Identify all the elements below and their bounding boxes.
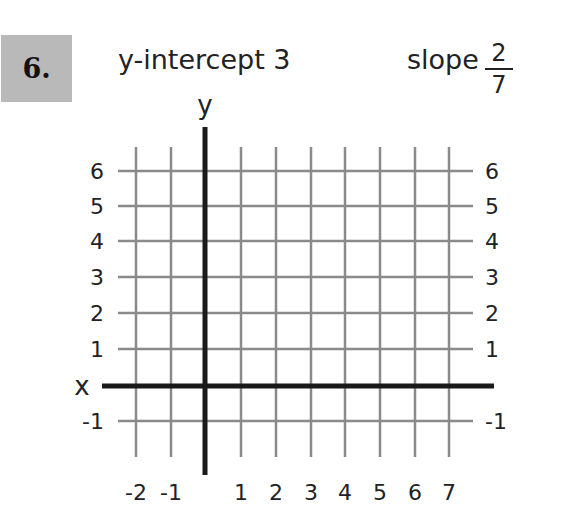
y-tick-label-left: 5 — [90, 194, 104, 219]
y-tick-label-left: 1 — [90, 337, 104, 362]
y-tick-label-right: 4 — [485, 229, 499, 254]
x-tick-label: 3 — [304, 480, 318, 505]
y-tick-label-right: 1 — [485, 337, 499, 362]
x-tick-label: 1 — [234, 480, 248, 505]
x-tick-label: 4 — [338, 480, 352, 505]
y-tick-label-left: 3 — [90, 265, 104, 290]
x-tick-label: 6 — [408, 480, 422, 505]
x-tick-label: -1 — [160, 480, 182, 505]
y-tick-label-right: 2 — [485, 301, 499, 326]
grid-lines — [118, 147, 473, 457]
x-axis-label: x — [74, 371, 89, 401]
y-tick-label-right: 5 — [485, 194, 499, 219]
y-tick-label-left: -1 — [82, 409, 104, 434]
y-tick-label-right: 6 — [485, 159, 499, 184]
y-axis-label: y — [197, 90, 212, 120]
x-tick-label: 2 — [269, 480, 283, 505]
y-tick-label-left: 4 — [90, 229, 104, 254]
x-tick-label: 7 — [442, 480, 456, 505]
y-tick-label-right: 3 — [485, 265, 499, 290]
x-tick-label: -2 — [125, 480, 147, 505]
y-tick-label-right: -1 — [485, 409, 507, 434]
y-tick-label-left: 6 — [90, 159, 104, 184]
x-tick-label: 5 — [373, 480, 387, 505]
coordinate-grid: y x -2-11234567654321-1654321-1 — [0, 0, 571, 511]
y-tick-label-left: 2 — [90, 301, 104, 326]
